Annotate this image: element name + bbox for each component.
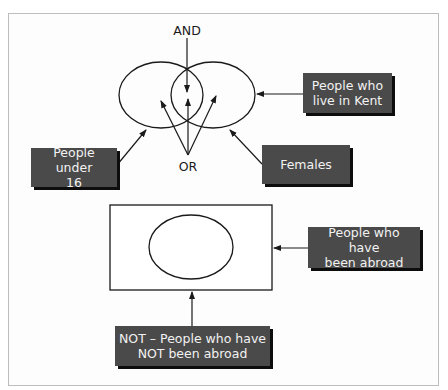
venn-left-ellipse — [119, 62, 203, 128]
label-people-under-16: People under 16 — [31, 148, 117, 187]
under-16-arrow — [117, 130, 146, 165]
label-people-in-kent: People who live in Kent — [303, 73, 392, 113]
venn-right-ellipse — [171, 62, 255, 128]
and-label: AND — [167, 23, 207, 38]
label-been-abroad: People who have been abroad — [308, 227, 420, 268]
label-not-been-abroad: NOT – People who have NOT been abroad — [115, 326, 270, 366]
or-label: OR — [168, 159, 208, 174]
or-arrow-right — [188, 96, 216, 155]
label-females: Females — [262, 145, 350, 184]
universe-rectangle — [110, 205, 272, 290]
females-arrow — [230, 130, 262, 164]
